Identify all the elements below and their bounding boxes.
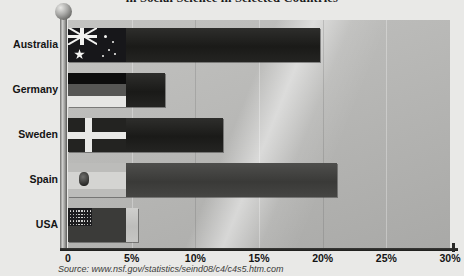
usa-flag (68, 208, 126, 242)
y-axis-pole (60, 16, 67, 250)
x-tick-label-15: 15% (248, 252, 269, 264)
gridline-20% (323, 20, 324, 248)
source-note: Source: www.nsf.gov/statistics/seind08/c… (58, 264, 284, 274)
spain-flag (68, 163, 126, 197)
x-tick-label-25: 25% (376, 252, 397, 264)
y-label-spain: Spain (0, 173, 58, 185)
gridline-25% (386, 20, 387, 248)
x-tick-label-10: 10% (185, 252, 206, 264)
y-label-australia: Australia (0, 38, 58, 50)
x-tick-label-30: 30% (439, 252, 460, 264)
chart-container: in Social Science in Selected Countries … (0, 0, 464, 276)
x-tick-label-5: 5% (124, 252, 139, 264)
bar-spain (68, 163, 337, 197)
plot-area (68, 20, 450, 248)
pole-finial-sphere-icon (55, 3, 72, 20)
y-label-sweden: Sweden (0, 128, 58, 140)
x-axis-end-cap (452, 243, 455, 252)
x-tick-label-20: 20% (312, 252, 333, 264)
germany-flag (68, 73, 126, 107)
bar-sweden (68, 118, 223, 152)
x-tick-label-0: 0 (65, 252, 71, 264)
bar-germany (68, 73, 165, 107)
sweden-flag (68, 118, 126, 152)
bar-usa (68, 208, 138, 242)
australia-flag (68, 28, 126, 62)
y-label-usa: USA (0, 218, 58, 230)
bar-australia (68, 28, 320, 62)
y-label-germany: Germany (0, 83, 58, 95)
x-axis-line (60, 248, 458, 251)
